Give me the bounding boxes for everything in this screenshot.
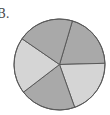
pie-chart: [0, 0, 110, 115]
pie-chart-svg: [0, 0, 110, 115]
